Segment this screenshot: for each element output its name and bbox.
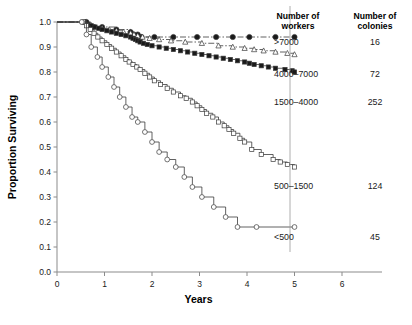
y-tick-label: 0.0 <box>39 267 51 277</box>
series--500 <box>57 20 297 230</box>
data-marker <box>165 86 169 90</box>
data-marker <box>193 51 197 55</box>
data-marker <box>114 50 118 54</box>
x-tick-label: 3 <box>197 279 202 289</box>
data-marker <box>152 34 157 39</box>
data-marker <box>230 34 235 39</box>
data-marker <box>195 34 200 39</box>
legend-row-count: 72 <box>370 69 380 79</box>
legend-header-colonies: Number of <box>354 11 397 21</box>
data-marker <box>292 225 297 230</box>
data-marker <box>173 165 178 170</box>
x-tick-label: 0 <box>55 279 60 289</box>
x-tick-label: 5 <box>292 279 297 289</box>
legend-row-label: 500–1500 <box>274 181 313 191</box>
data-marker <box>250 147 254 151</box>
legend-header-colonies: colonies <box>358 21 393 31</box>
data-marker <box>142 130 147 135</box>
data-marker <box>147 35 152 40</box>
data-marker <box>285 50 290 55</box>
x-tick-label: 6 <box>340 279 345 289</box>
data-marker <box>165 157 170 162</box>
data-marker <box>292 165 296 169</box>
data-marker <box>232 131 236 135</box>
data-marker <box>186 50 190 54</box>
y-tick-label: 0.6 <box>39 117 51 127</box>
data-marker <box>259 152 263 156</box>
data-marker <box>266 65 270 69</box>
data-marker <box>278 160 282 164</box>
data-marker <box>96 35 100 39</box>
legend-row-count: 252 <box>368 97 383 107</box>
data-marker <box>207 54 211 58</box>
data-marker <box>252 47 257 52</box>
data-marker <box>135 120 140 125</box>
data-marker <box>105 29 109 33</box>
data-marker <box>152 79 156 83</box>
y-axis-title: Proportion Surviving <box>6 95 18 199</box>
data-marker <box>138 67 142 71</box>
data-marker <box>117 95 122 100</box>
data-marker <box>214 34 219 39</box>
data-marker <box>261 48 266 53</box>
y-tick-label: 0.1 <box>39 242 51 252</box>
data-marker <box>247 34 252 39</box>
data-marker <box>178 94 182 98</box>
data-marker <box>216 120 220 124</box>
data-marker <box>199 40 204 45</box>
data-marker <box>148 75 152 79</box>
legend-row-count: 124 <box>368 181 383 191</box>
legend-row-label: <500 <box>274 232 294 242</box>
data-marker <box>150 44 154 48</box>
data-marker <box>235 225 240 230</box>
data-marker <box>227 127 231 131</box>
data-marker <box>143 71 147 75</box>
data-marker <box>95 55 100 60</box>
y-tick-label: 0.4 <box>39 167 51 177</box>
data-marker <box>157 45 161 49</box>
data-marker <box>145 42 149 46</box>
data-marker <box>123 105 128 110</box>
data-marker <box>157 37 162 42</box>
data-marker <box>119 54 123 58</box>
data-marker <box>238 136 242 140</box>
data-marker <box>211 205 216 210</box>
data-marker <box>184 96 188 100</box>
y-tick-label: 0.9 <box>39 42 51 52</box>
data-marker <box>110 46 114 50</box>
y-tick-label: 1.0 <box>39 17 51 27</box>
data-marker <box>200 107 204 111</box>
y-tick-label: 0.5 <box>39 142 51 152</box>
data-marker <box>223 215 228 220</box>
data-marker <box>235 59 239 63</box>
curve-line <box>57 22 295 167</box>
survival-plot-svg: 0.00.10.20.30.40.50.60.70.80.91.00123456… <box>0 0 412 325</box>
data-marker <box>84 32 89 37</box>
data-marker <box>285 162 289 166</box>
data-marker <box>171 47 175 51</box>
axis-frame <box>57 22 382 272</box>
y-tick-label: 0.7 <box>39 92 51 102</box>
legend: Number ofworkersNumber ofcolonies>700016… <box>274 6 397 252</box>
data-marker <box>259 64 263 68</box>
data-marker <box>190 185 195 190</box>
x-axis-title: Years <box>184 293 212 305</box>
legend-header-workers: workers <box>281 21 315 31</box>
data-marker <box>195 104 199 108</box>
data-marker <box>254 225 259 230</box>
data-marker <box>199 195 204 200</box>
data-marker <box>252 62 256 66</box>
data-marker <box>164 46 168 50</box>
data-marker <box>222 124 226 128</box>
legend-header-workers: Number of <box>277 11 320 21</box>
data-marker <box>150 140 155 145</box>
data-marker <box>157 150 162 155</box>
legend-row-label: 1500–4000 <box>274 97 318 107</box>
data-marker <box>205 111 209 115</box>
data-marker <box>230 44 235 49</box>
legend-row-label: 4000–7000 <box>274 69 318 79</box>
data-marker <box>89 45 94 50</box>
data-marker <box>211 115 215 119</box>
data-marker <box>178 49 182 53</box>
legend-row-label: >7000 <box>274 37 299 47</box>
